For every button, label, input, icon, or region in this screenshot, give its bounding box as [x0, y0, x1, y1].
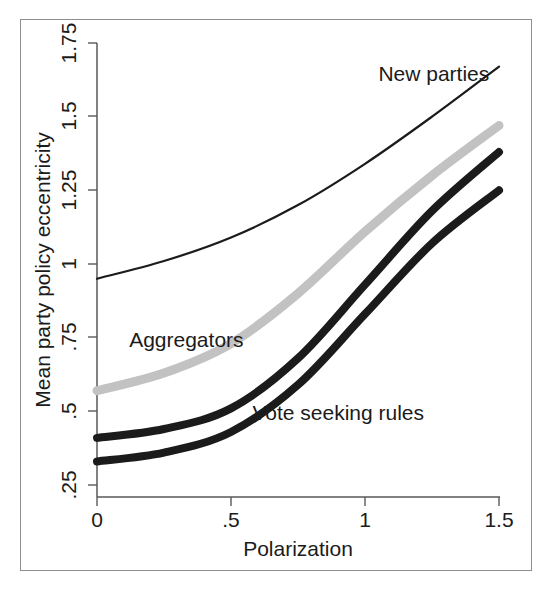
chart-canvas: 1.75 1.5 1.25 1 .75 .5 .25 0 .5 1 1.5 Me…: [0, 0, 558, 590]
annotation-label-0: New parties: [378, 62, 489, 85]
x-tick-group: [97, 497, 499, 506]
x-tick-label-1.5: 1.5: [484, 508, 513, 531]
x-tick-labels: 0 .5 1 1.5: [91, 508, 513, 531]
y-tick-label-0.75: .75: [57, 322, 80, 351]
x-axis-title: Polarization: [243, 537, 353, 560]
y-tick-group: [88, 43, 97, 485]
y-tick-label-1: 1: [57, 258, 80, 270]
y-tick-label-1.25: 1.25: [57, 170, 80, 211]
annotation-label-2: Vote seeking rules: [252, 401, 424, 424]
y-tick-label-1.75: 1.75: [57, 23, 80, 64]
y-axis-title: Mean party policy eccentricity: [31, 132, 54, 408]
annotation-label-1: Aggregators: [129, 328, 243, 351]
y-tick-labels: 1.75 1.5 1.25 1 .75 .5 .25: [57, 23, 80, 500]
y-tick-label-1.5: 1.5: [57, 101, 80, 130]
figure-container: 1.75 1.5 1.25 1 .75 .5 .25 0 .5 1 1.5 Me…: [0, 0, 558, 590]
y-tick-label-0.25: .25: [57, 470, 80, 499]
x-tick-label-1: 1: [359, 508, 371, 531]
series-curve-1: [97, 126, 499, 391]
x-tick-label-0.5: .5: [222, 508, 240, 531]
y-tick-label-0.5: .5: [57, 402, 80, 420]
x-tick-label-0: 0: [91, 508, 103, 531]
